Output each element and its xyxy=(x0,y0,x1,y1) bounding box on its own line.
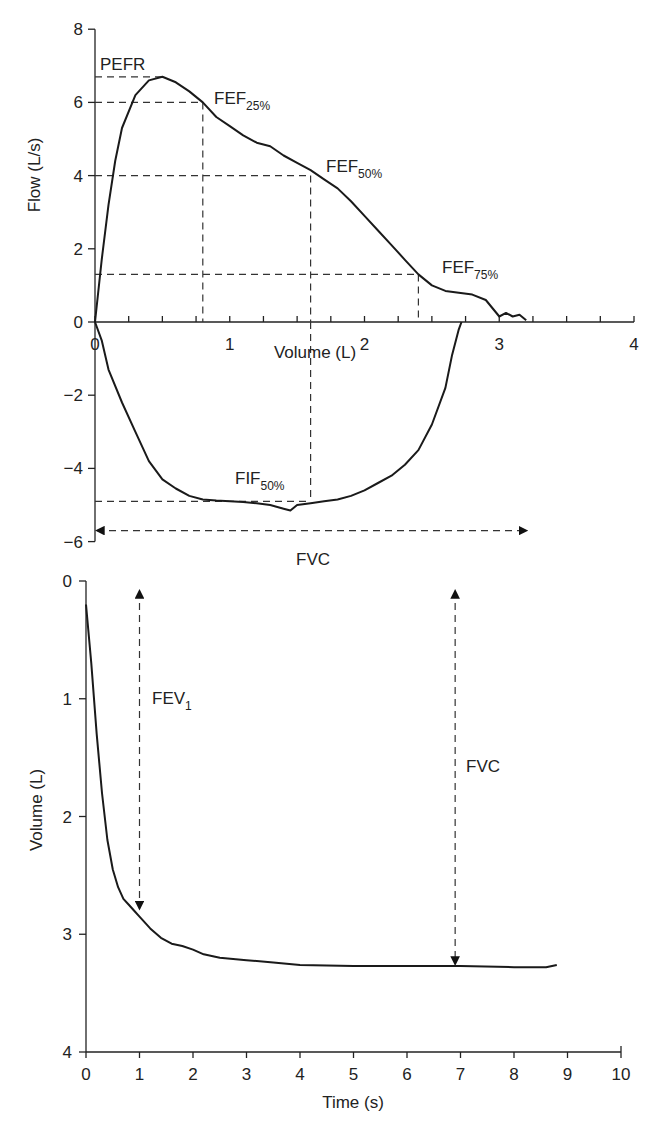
flow-tick-label: −6 xyxy=(64,533,83,552)
fvc-bottom-label: FVC xyxy=(466,757,500,776)
volume-time-axes: 01234012345678910 xyxy=(63,572,631,1084)
volume-axis-title-bottom: Volume (L) xyxy=(27,769,46,851)
volume-tick-label: 3 xyxy=(63,925,72,944)
time-axis-title: Time (s) xyxy=(322,1093,384,1112)
flow-tick-label: 6 xyxy=(74,93,83,112)
flow-tick-label: 4 xyxy=(74,167,83,186)
volume-time-chart: 01234012345678910 Volume (L) Time (s) FE… xyxy=(27,572,630,1112)
flow-tick-label: −4 xyxy=(64,459,83,478)
spirometry-figure: 86420−2−4−601234 Flow (L/s) Volume (L) P… xyxy=(0,0,651,1130)
time-tick-label: 4 xyxy=(295,1065,304,1084)
flow-axis-title: Flow (L/s) xyxy=(25,138,44,213)
fvc-top-label: FVC xyxy=(296,550,330,569)
flow-tick-label: 8 xyxy=(74,20,83,39)
volume-tick-label: 0 xyxy=(90,335,99,354)
time-tick-label: 7 xyxy=(456,1065,465,1084)
time-tick-label: 10 xyxy=(612,1065,631,1084)
fif50-label: FIF50% xyxy=(235,469,285,493)
pefr-label: PEFR xyxy=(100,55,145,74)
time-tick-label: 5 xyxy=(349,1065,358,1084)
flow-tick-label: 2 xyxy=(74,240,83,259)
time-tick-label: 2 xyxy=(188,1065,197,1084)
time-tick-label: 3 xyxy=(242,1065,251,1084)
fef75-label: FEF75% xyxy=(442,258,498,282)
time-tick-label: 6 xyxy=(402,1065,411,1084)
time-tick-label: 8 xyxy=(509,1065,518,1084)
volume-tick-label: 2 xyxy=(63,808,72,827)
volume-time-curve xyxy=(86,605,557,968)
flow-volume-chart: 86420−2−4−601234 Flow (L/s) Volume (L) P… xyxy=(25,20,639,569)
volume-tick-label: 2 xyxy=(360,335,369,354)
flow-tick-label: −2 xyxy=(64,386,83,405)
volume-tick-label: 0 xyxy=(63,572,72,591)
flow-tick-label: 0 xyxy=(74,313,83,332)
fef50-label: FEF50% xyxy=(326,157,382,181)
fev1-label: FEV1 xyxy=(152,689,192,713)
volume-time-reference-arrows xyxy=(140,591,456,964)
time-tick-label: 1 xyxy=(135,1065,144,1084)
time-tick-label: 9 xyxy=(563,1065,572,1084)
time-tick-label: 0 xyxy=(81,1065,90,1084)
volume-tick-label: 4 xyxy=(63,1043,72,1062)
flow-volume-reference-lines xyxy=(95,77,526,531)
volume-axis-title: Volume (L) xyxy=(274,343,356,362)
volume-tick-label: 1 xyxy=(63,690,72,709)
flow-volume-axes: 86420−2−4−601234 xyxy=(64,20,639,551)
volume-tick-label: 1 xyxy=(225,335,234,354)
volume-tick-label: 4 xyxy=(629,335,638,354)
fef25-label: FEF25% xyxy=(214,89,270,113)
volume-tick-label: 3 xyxy=(495,335,504,354)
